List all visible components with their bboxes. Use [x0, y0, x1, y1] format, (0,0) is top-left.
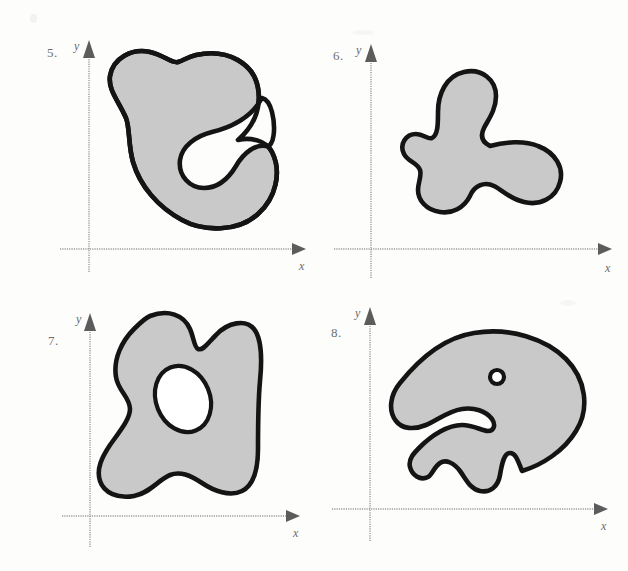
figure-panel-8: 8. x y	[314, 285, 628, 570]
x-axis-arrowhead	[598, 243, 612, 255]
figure-panel-5: 5. x y	[0, 0, 314, 285]
figure-number-6: 6.	[333, 48, 344, 64]
shaded-region-8	[391, 331, 584, 491]
region-8-hole	[490, 370, 504, 384]
x-axis-label: x	[292, 526, 299, 540]
y-axis-arrowhead	[83, 40, 95, 58]
figure-number-8: 8.	[331, 325, 342, 341]
x-axis-arrowhead	[292, 243, 306, 255]
figure-7-graphic: x y	[0, 285, 314, 571]
figure-number-7: 7.	[48, 333, 59, 349]
y-axis-label: y	[75, 312, 82, 326]
y-axis-arrowhead	[364, 307, 376, 325]
figure-panel-6: 6. x y	[314, 0, 628, 285]
figure-number-5: 5.	[47, 45, 58, 61]
y-axis-label: y	[355, 43, 362, 57]
figure-5-graphic: x y	[0, 0, 314, 286]
y-axis-arrowhead	[365, 44, 377, 62]
figure-panel-7: 7. x y	[0, 285, 314, 570]
figure-6-graphic: x y	[314, 0, 628, 286]
x-axis-label: x	[600, 519, 607, 533]
x-axis-arrowhead	[594, 503, 608, 515]
figure-sheet: 5. x y 6.	[0, 0, 628, 571]
x-axis-arrowhead	[286, 510, 300, 522]
figure-8-graphic: x y	[314, 285, 628, 571]
y-axis-label: y	[354, 306, 361, 320]
shaded-region-6	[402, 71, 561, 212]
y-axis-arrowhead	[84, 313, 96, 331]
x-axis-label: x	[298, 259, 305, 273]
x-axis-label: x	[604, 261, 611, 275]
y-axis-label: y	[73, 39, 80, 53]
